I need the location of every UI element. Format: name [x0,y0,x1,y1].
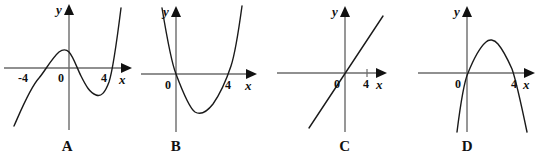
x-axis-name: x [522,77,530,92]
graph-panel-b: 0 4 x y B [135,0,275,157]
graph-a-plot: -4 0 4 x y [0,0,135,140]
x-tick-label-zero: 0 [165,78,171,92]
x-tick-label-zero: 0 [334,77,340,91]
cubic-curve-a [14,8,121,126]
y-axis-name: y [54,2,62,17]
y-axis-name: y [330,4,338,19]
x-tick-label-four: 4 [511,77,517,91]
x-tick-label-zero: 0 [455,77,461,91]
graph-panel-d: 0 4 x y D [410,0,543,157]
y-axis-arrowhead [64,4,74,15]
y-axis-arrowhead [462,6,472,17]
panel-label-c: C [275,138,415,155]
x-tick-label-neg4: -4 [18,71,28,85]
graph-d-plot: 0 4 x y [410,0,543,140]
multiple-choice-graph-figure: -4 0 4 x y A 0 4 x y B [0,0,543,157]
x-tick-label-four: 4 [101,71,107,85]
y-axis-name: y [161,4,169,19]
graph-b-plot: 0 4 x y [135,0,275,140]
x-axis-name: x [244,78,252,93]
graph-panel-a: -4 0 4 x y A [0,0,135,157]
panel-label-a: A [0,138,135,155]
y-axis-name: y [452,4,460,19]
x-axis-name: x [118,72,126,87]
panel-label-d: D [410,138,525,155]
x-tick-label-zero: 0 [58,71,64,85]
y-axis-arrowhead [340,6,350,17]
panel-label-b: B [135,138,217,155]
graph-c-plot: 0 4 x y [275,0,410,140]
y-axis-arrowhead [171,6,181,17]
x-axis-name: x [375,77,383,92]
graph-panel-c: 0 4 x y C [275,0,410,157]
x-tick-label-four: 4 [225,78,231,92]
parabola-curve-b [162,6,242,113]
x-tick-label-four: 4 [363,77,369,91]
line-curve-c [309,16,383,128]
